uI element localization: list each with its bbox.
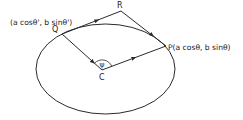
label-psi: ψ bbox=[100, 60, 105, 69]
label-q: Q bbox=[52, 25, 58, 34]
label-c: C bbox=[99, 73, 105, 82]
label-r: R bbox=[117, 1, 123, 10]
label-p: P(a cosθ, b sinθ) bbox=[168, 43, 231, 52]
segment-q-c bbox=[62, 34, 102, 70]
ellipse-diagram: (a cosθ', b sinθ') Q R P(a cosθ, b sinθ)… bbox=[0, 0, 243, 120]
segment-r-p bbox=[121, 11, 166, 46]
label-q-coords: (a cosθ', b sinθ') bbox=[10, 18, 72, 27]
segment-c-p bbox=[102, 46, 166, 70]
